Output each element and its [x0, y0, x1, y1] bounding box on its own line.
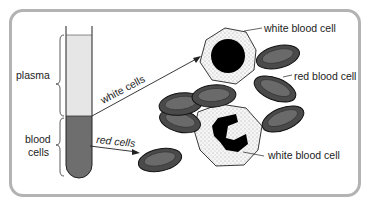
red-blood-cell	[254, 41, 302, 73]
white-blood-cell-bottom	[194, 104, 262, 166]
blood-cells-label-line1: blood	[25, 133, 51, 145]
red-blood-cell	[250, 71, 299, 108]
white-cells-arrow-label: white cells	[97, 72, 146, 106]
plasma-label: plasma	[16, 69, 50, 81]
nucleus	[211, 39, 245, 73]
red-blood-cell	[136, 145, 184, 176]
plasma-brace	[56, 35, 64, 116]
blood-cells-layer	[66, 116, 92, 178]
blood-cells-label-line2: cells	[28, 146, 49, 158]
white-blood-cell-bottom-label: white blood cell	[267, 149, 340, 161]
white-blood-cell-top	[200, 28, 256, 84]
red-blood-cell-label: red blood cell	[294, 70, 356, 82]
red-blood-cell	[258, 101, 307, 138]
test-tube	[66, 26, 92, 178]
blood-cells-brace	[56, 118, 64, 176]
red-cells-arrow-label: red cells	[96, 133, 137, 149]
red-blood-cell	[191, 83, 237, 109]
plasma-layer	[66, 35, 92, 116]
white-blood-cell-top-label: white blood cell	[263, 22, 336, 34]
blood-diagram: plasma blood cells white cells red cells…	[0, 0, 369, 209]
